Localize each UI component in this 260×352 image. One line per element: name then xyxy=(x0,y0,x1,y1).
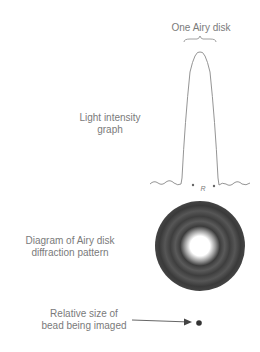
pattern-label: Diagram of Airy disk diffraction pattern xyxy=(10,235,130,259)
bead-label-line1: Relative size of xyxy=(34,308,134,320)
airy-disk-brace xyxy=(184,36,216,42)
bead-arrow-head xyxy=(184,319,192,326)
bead-label: Relative size of bead being imaged xyxy=(34,308,134,332)
graph-label-line1: Light intensity xyxy=(70,112,150,124)
radius-marker-left xyxy=(192,184,194,186)
bead-dot xyxy=(196,320,202,326)
bead-label-line2: bead being imaged xyxy=(34,320,134,332)
intensity-curve xyxy=(150,52,250,185)
graph-label-line2: graph xyxy=(70,124,150,136)
airy-diagram-canvas xyxy=(0,0,260,352)
radius-label: R xyxy=(198,183,208,195)
bead-arrow-line xyxy=(132,320,190,322)
pattern-label-line1: Diagram of Airy disk xyxy=(10,235,130,247)
airy-disk-label: One Airy disk xyxy=(166,22,236,34)
pattern-label-line2: diffraction pattern xyxy=(10,247,130,259)
graph-label: Light intensity graph xyxy=(70,112,150,136)
airy-disk-pattern xyxy=(155,201,245,291)
radius-marker-right xyxy=(213,185,215,187)
